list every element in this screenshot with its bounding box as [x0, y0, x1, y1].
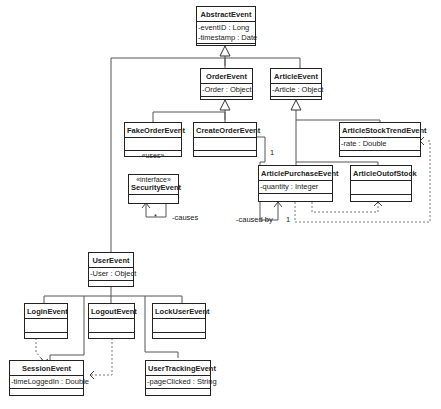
class-attributes: -User : Object	[89, 268, 133, 281]
attribute: -pageClicked : String	[147, 377, 209, 387]
class-operations	[89, 333, 134, 344]
class-attributes: -eventID : Long -timestamp : Date	[197, 22, 255, 44]
class-name: UserTrackingEvent	[146, 361, 210, 376]
class-operations	[340, 151, 420, 162]
class-attributes: -timeLoggedIn : Double	[10, 376, 83, 389]
class-attributes: -Article : Object	[271, 84, 321, 97]
class-session-event[interactable]: SessionEvent -timeLoggedIn : Double	[9, 360, 84, 396]
class-name: ArticleOutofStock	[351, 166, 411, 181]
class-operations	[259, 194, 332, 205]
caused-by-label: -caused by	[236, 215, 273, 224]
class-operations	[10, 389, 83, 400]
multiplicity-one-create: 1	[270, 148, 274, 157]
class-article-stock-trend-event[interactable]: ArticleStockTrendEvent -rate : Double	[339, 122, 421, 157]
class-operations	[25, 333, 67, 344]
attribute: -User : Object	[90, 269, 132, 279]
class-article-purchase-event[interactable]: ArticlePurchaseEvent -quantity : Integer	[258, 165, 333, 202]
class-abstract-event[interactable]: AbstractEvent -eventID : Long -timestamp…	[196, 6, 256, 46]
class-attributes: -Order : Object	[201, 84, 252, 97]
class-name: LoginEvent	[25, 304, 67, 319]
class-operations	[201, 97, 252, 108]
class-attributes	[25, 319, 67, 333]
attribute: -Article : Object	[272, 85, 320, 95]
class-operations	[129, 195, 178, 206]
class-attributes	[194, 138, 256, 151]
class-operations	[89, 281, 133, 292]
attribute: -rate : Double	[341, 139, 419, 149]
class-operations	[153, 333, 205, 344]
class-attributes	[153, 319, 205, 333]
class-name: «interface» SecurityEvent	[129, 175, 178, 195]
attribute: -timeLoggedIn : Double	[11, 377, 82, 387]
class-operations	[351, 195, 411, 206]
class-security-event[interactable]: «interface» SecurityEvent	[128, 174, 179, 204]
class-name: ArticleStockTrendEvent	[340, 123, 420, 138]
class-name: OrderEvent	[201, 69, 252, 84]
class-name: LockUserEvent	[153, 304, 205, 319]
class-name-text: SecurityEvent	[131, 183, 181, 192]
class-operations	[197, 44, 255, 55]
class-name: SessionEvent	[10, 361, 83, 376]
class-attributes	[89, 319, 134, 333]
class-order-event[interactable]: OrderEvent -Order : Object	[200, 68, 253, 100]
causes-label: -causes	[172, 213, 198, 222]
class-name: FakeOrderEvent	[125, 123, 181, 138]
class-operations	[146, 389, 210, 400]
stereotype: «interface»	[131, 176, 176, 183]
class-name: AbstractEvent	[197, 7, 255, 22]
attribute: -timestamp : Date	[198, 33, 254, 43]
class-name: UserEvent	[89, 253, 133, 268]
attribute: -eventID : Long	[198, 23, 254, 33]
class-name: ArticlePurchaseEvent	[259, 166, 332, 181]
class-logout-event[interactable]: LogoutEvent	[88, 303, 135, 339]
class-operations	[271, 97, 321, 108]
class-operations: «uses»	[125, 151, 181, 162]
class-fake-order-event[interactable]: FakeOrderEvent «uses»	[124, 122, 182, 157]
class-attributes: -quantity : Integer	[259, 181, 332, 194]
multiplicity-one-purchase: 1	[286, 215, 290, 224]
class-name: CreateOrderEvent	[194, 123, 256, 138]
attribute: -quantity : Integer	[260, 182, 331, 192]
class-attributes: -pageClicked : String	[146, 376, 210, 389]
class-create-order-event[interactable]: CreateOrderEvent	[193, 122, 257, 157]
class-login-event[interactable]: LoginEvent	[24, 303, 68, 339]
multiplicity-star: *	[154, 212, 157, 221]
class-user-event[interactable]: UserEvent -User : Object	[88, 252, 134, 287]
class-article-event[interactable]: ArticleEvent -Article : Object	[270, 68, 322, 100]
class-attributes	[125, 138, 181, 151]
class-attributes: -rate : Double	[340, 138, 420, 151]
class-attributes	[351, 181, 411, 195]
class-operations	[194, 151, 256, 162]
class-user-tracking-event[interactable]: UserTrackingEvent -pageClicked : String	[145, 360, 211, 396]
class-lock-user-event[interactable]: LockUserEvent	[152, 303, 206, 339]
attribute: -Order : Object	[202, 85, 251, 95]
class-name: ArticleEvent	[271, 69, 321, 84]
class-article-outof-stock[interactable]: ArticleOutofStock	[350, 165, 412, 202]
class-name: LogoutEvent	[89, 304, 134, 319]
